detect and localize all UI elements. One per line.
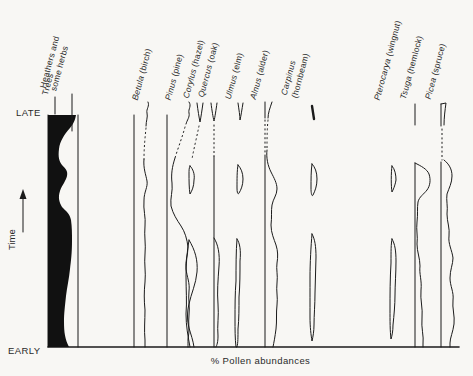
ulmus-lower-blob [235,239,240,347]
picea-curve [444,160,454,347]
quercus-top-mark [211,103,217,121]
quercus-lower-curve [214,238,219,347]
pollen-diagram: LATE EARLY Time % Pollen abundances Tree… [0,0,473,376]
alnus-curve-top [268,102,272,118]
carpinus-mid-blob [311,164,317,196]
trees-abundance-fill [48,115,76,347]
betula-curve-dotted [144,128,146,159]
alnus-curve-dotted [267,120,268,150]
tsuga-curve [415,163,430,347]
betula-curve-top [146,102,149,126]
ulmus-top-mark [238,103,243,120]
carpinus-lower-blob [310,234,316,341]
pinus-curve-dotted [175,127,185,158]
time-arrow-head [20,189,27,199]
carpinus-top-tick [312,106,314,119]
late-label: LATE [16,107,41,118]
pterocarya-lower-blob [390,239,396,339]
pinus-curve-top [186,102,190,124]
pterocarya-mid-blob [391,166,396,192]
ulmus-mid-blob [237,165,243,194]
picea-top-mark [441,103,446,126]
early-label: EARLY [8,345,40,356]
corylus-top-mark [197,103,203,122]
alnus-curve [267,150,278,347]
corylus-mid-blob [189,166,194,194]
betula-curve [144,159,147,347]
corylus-curve-dotted [192,126,199,159]
x-axis-label: % Pollen abundances [188,355,333,366]
time-axis-label: Time [6,229,17,250]
